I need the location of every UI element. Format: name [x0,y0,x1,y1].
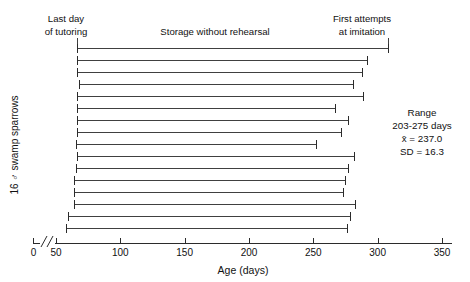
bar-row-7 [78,116,349,125]
annotation-storage-without-rehearsal: Storage without rehearsal [160,26,269,37]
bar-row-1 [78,44,389,53]
stats-sd: SD = 16.3 [400,146,444,157]
annotation-left-line2: of tutoring [45,26,88,37]
x-tick-label-200: 200 [241,247,258,258]
bar-row-14 [75,200,356,209]
axis-break-slash-2 [47,236,53,247]
x-axis-title: Age (days) [218,264,269,276]
x-tick-label-50: 50 [50,247,62,258]
x-tick-label-250: 250 [305,247,322,258]
bar-row-10 [78,152,355,161]
x-tick-label-0: 0 [31,247,37,258]
stats-range: 203-275 days [392,120,451,131]
bar-row-16 [67,224,348,233]
bar-row-3 [78,68,363,77]
axis-break-slash-1 [41,236,47,247]
bar-row-12 [75,176,346,185]
x-tick-label-100: 100 [112,247,129,258]
stats-mean: x̄ = 237.0 [402,133,443,144]
x-tick-label-350: 350 [434,247,451,258]
x-tick-label-300: 300 [369,247,386,258]
chart-svg: Last day of tutoring Storage without reh… [0,0,470,282]
annotation-left-line1: Last day [48,13,84,24]
bar-row-13 [75,188,344,197]
x-axis: 0 50 100 150 200 250 300 350 Age (days) [31,236,453,276]
y-axis-title: 16 ♂ swamp sparrows [9,95,20,194]
bar-row-5 [78,92,364,101]
bars-group [67,44,389,233]
bar-row-15 [69,212,351,221]
bar-row-11 [77,164,349,173]
bar-row-6 [78,104,336,113]
x-tick-label-150: 150 [176,247,193,258]
chart-figure: Last day of tutoring Storage without reh… [0,0,470,282]
annotation-right-line1: First attempts [333,13,391,24]
annotation-first-attempts-at-imitation: First attempts at imitation [333,13,391,37]
annotation-right-line2: at imitation [339,26,385,37]
annotation-last-day-of-tutoring: Last day of tutoring [45,13,88,37]
bar-row-9 [77,140,317,149]
bar-row-8 [78,128,342,137]
bar-row-2 [78,56,368,65]
bar-row-4 [80,80,354,89]
stats-title: Range [408,107,437,118]
stats-box: Range 203-275 days x̄ = 237.0 SD = 16.3 [392,107,451,157]
